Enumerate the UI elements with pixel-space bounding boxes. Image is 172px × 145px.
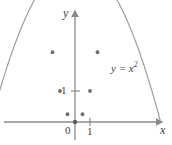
x-axis-label: x [160, 124, 165, 136]
curve-point [88, 89, 92, 93]
curve-point [66, 112, 70, 116]
graph-canvas [0, 0, 172, 145]
curve-point [51, 50, 55, 54]
curve-equation-label: y = x2 [111, 63, 137, 74]
curve-equation-text: y = x [111, 62, 134, 74]
curve-point [81, 112, 85, 116]
curve-equation-exponent: 2 [134, 60, 138, 69]
y-axis-arrowhead [71, 10, 79, 18]
x-axis [4, 118, 164, 126]
curve-point-vertex [73, 120, 77, 124]
parabola-figure: y x 1 1 0 y = x2 [0, 0, 172, 145]
curve-point [96, 50, 100, 54]
y-axis-label: y [63, 7, 68, 19]
y-axis-tick-label-1: 1 [61, 85, 67, 96]
origin-label: 0 [65, 125, 71, 136]
x-axis-tick-label-1: 1 [87, 126, 93, 137]
